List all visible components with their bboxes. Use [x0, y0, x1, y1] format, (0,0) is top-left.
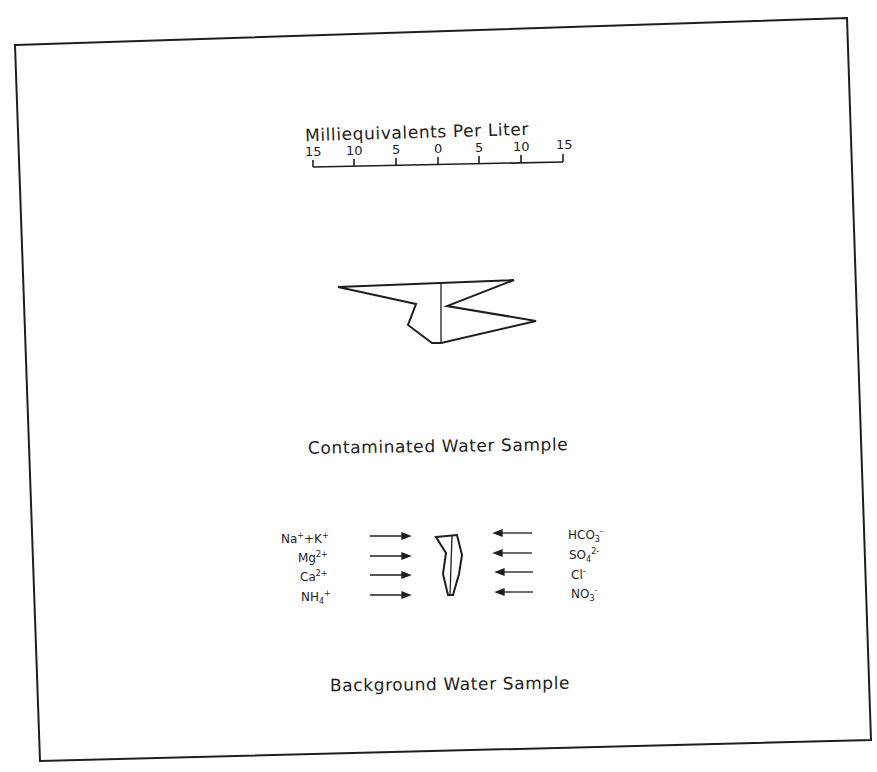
- cation-label-na-k: Na++K+: [281, 530, 329, 545]
- tick-label: 10: [346, 143, 363, 158]
- background-caption: Background Water Sample: [330, 673, 570, 696]
- tick-label: 5: [475, 140, 483, 155]
- contaminated-caption: Contaminated Water Sample: [308, 434, 569, 458]
- background-stiff-polygon: [436, 535, 462, 595]
- contaminated-stiff-polygon: [338, 280, 536, 343]
- anion-label-hco3: HCO3-: [568, 526, 603, 546]
- anion-label-cl: Cl-: [571, 566, 586, 581]
- cation-label-ca: Ca2+: [300, 568, 328, 583]
- tick-label: 10: [513, 139, 530, 154]
- anion-label-so4: SO42-: [569, 546, 599, 566]
- cation-label-mg: Mg2+: [298, 549, 328, 564]
- anion-arrows: [494, 530, 533, 595]
- tick-label: 15: [556, 137, 573, 152]
- tick-label: 15: [305, 144, 322, 159]
- cation-arrows: [370, 533, 410, 598]
- tick-label: 5: [392, 142, 400, 157]
- diagram-canvas: [0, 0, 877, 772]
- tick-label: 0: [434, 141, 442, 156]
- cation-label-nh4: NH4+: [301, 588, 331, 608]
- anion-label-no3: NO3-: [571, 585, 597, 605]
